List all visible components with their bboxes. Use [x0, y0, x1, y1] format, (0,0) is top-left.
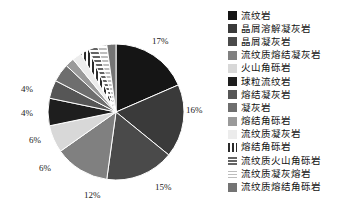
pie-slice-percentage-label: 6%: [29, 135, 41, 145]
legend-item[interactable]: 流纹质熔结角砾岩: [228, 180, 345, 193]
legend-color-swatch: [228, 37, 237, 46]
legend-item[interactable]: 火山角砾岩: [228, 62, 345, 75]
legend-item[interactable]: 流纹岩: [228, 9, 345, 22]
chart-legend: 流纹岩晶屑溶解凝灰岩晶屑凝灰岩流纹质熔结凝灰岩火山角砾岩球粒流纹岩熔结凝灰岩凝灰…: [228, 9, 345, 194]
legend-item-label: 凝灰岩: [241, 103, 271, 113]
legend-item[interactable]: 熔结角砾岩: [228, 115, 345, 128]
legend-color-swatch: [228, 117, 237, 126]
chart-root: 17%16%15%12%6%6%4%4% 流纹岩晶屑溶解凝灰岩晶屑凝灰岩流纹质熔…: [0, 0, 345, 210]
pie-slice-percentage-label: 17%: [152, 36, 169, 46]
legend-item[interactable]: 晶屑溶解凝灰岩: [228, 22, 345, 35]
legend-item-label: 流纹岩: [241, 11, 271, 21]
legend-color-swatch: [228, 51, 237, 60]
pie-chart-area: 17%16%15%12%6%6%4%4%: [0, 0, 226, 210]
pie-slice-percentage-label: 6%: [39, 163, 51, 173]
pie-slice-percentage-label: 4%: [21, 84, 33, 94]
legend-item[interactable]: 熔结角砾岩: [228, 141, 345, 154]
legend-item[interactable]: 流纹质凝灰岩: [228, 128, 345, 141]
legend-item-label: 熔结角砾岩: [241, 142, 291, 152]
legend-color-swatch: [228, 130, 237, 139]
legend-item[interactable]: 凝灰岩: [228, 101, 345, 114]
legend-item-label: 流纹质凝灰岩: [241, 129, 301, 139]
legend-color-swatch: [228, 143, 237, 152]
legend-item[interactable]: 流纹质凝灰熔岩: [228, 167, 345, 180]
pie-slice-percentage-label: 15%: [155, 182, 172, 192]
legend-item-label: 流纹质凝灰熔岩: [241, 169, 311, 179]
legend-color-swatch: [228, 183, 237, 192]
legend-item-label: 流纹质熔结凝灰岩: [241, 50, 321, 60]
pie-slices: [48, 44, 184, 180]
legend-item[interactable]: 流纹质火山角砾岩: [228, 154, 345, 167]
legend-item-label: 流纹质火山角砾岩: [241, 156, 321, 166]
legend-color-swatch: [228, 103, 237, 112]
legend-color-swatch: [228, 90, 237, 99]
legend-item-label: 熔结凝灰岩: [241, 90, 291, 100]
legend-item[interactable]: 晶屑凝灰岩: [228, 35, 345, 48]
legend-item-label: 流纹质熔结角砾岩: [241, 182, 321, 192]
legend-color-swatch: [228, 24, 237, 33]
legend-color-swatch: [228, 11, 237, 20]
legend-item[interactable]: 熔结凝灰岩: [228, 88, 345, 101]
legend-color-swatch: [228, 156, 237, 165]
pie-slice-percentage-label: 4%: [21, 108, 33, 118]
pie-slice-percentage-label: 16%: [186, 105, 203, 115]
legend-item-label: 火山角砾岩: [241, 63, 291, 73]
legend-item-label: 熔结角砾岩: [241, 116, 291, 126]
legend-item-label: 球粒流纹岩: [241, 77, 291, 87]
legend-item-label: 晶屑凝灰岩: [241, 37, 291, 47]
legend-color-swatch: [228, 77, 237, 86]
pie-slice-percentage-label: 12%: [84, 190, 101, 200]
legend-color-swatch: [228, 64, 237, 73]
legend-color-swatch: [228, 169, 237, 178]
legend-item-label: 晶屑溶解凝灰岩: [241, 24, 311, 34]
legend-item[interactable]: 球粒流纹岩: [228, 75, 345, 88]
legend-item[interactable]: 流纹质熔结凝灰岩: [228, 49, 345, 62]
